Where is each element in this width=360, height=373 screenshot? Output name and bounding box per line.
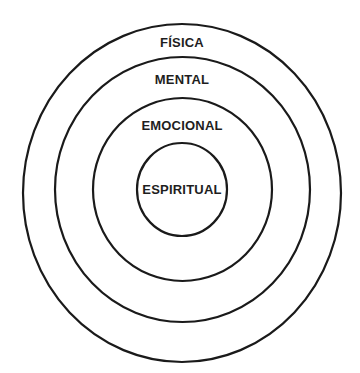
label-emocional: EMOCIONAL [0,119,360,133]
label-fisica: FÍSICA [0,36,360,50]
label-mental: MENTAL [0,73,360,87]
label-espiritual: ESPIRITUAL [0,183,360,197]
